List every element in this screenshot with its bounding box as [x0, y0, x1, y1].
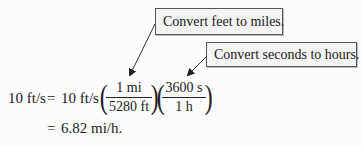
equation-rhs-prefix: 10 ft/s	[61, 90, 99, 107]
arrow-to-fraction-1	[130, 24, 155, 75]
fraction-2-denominator: 1 h	[162, 98, 206, 115]
equals-sign-2: =	[47, 120, 55, 137]
fraction-2-numerator: 3600 s	[162, 80, 206, 97]
equation-lhs: 10 ft/s	[8, 90, 46, 107]
arrow-to-fraction-2	[188, 57, 206, 75]
paren-close-2: )	[205, 80, 213, 114]
equals-sign-1: =	[47, 90, 55, 107]
fraction-1-denominator: 5280 ft	[106, 98, 152, 115]
fraction-1-numerator: 1 mi	[106, 80, 152, 97]
equation-result: 6.82 mi/h.	[61, 120, 122, 137]
fraction-feet-to-miles: 1 mi 5280 ft	[106, 80, 152, 115]
fraction-seconds-to-hours: 3600 s 1 h	[162, 80, 206, 115]
